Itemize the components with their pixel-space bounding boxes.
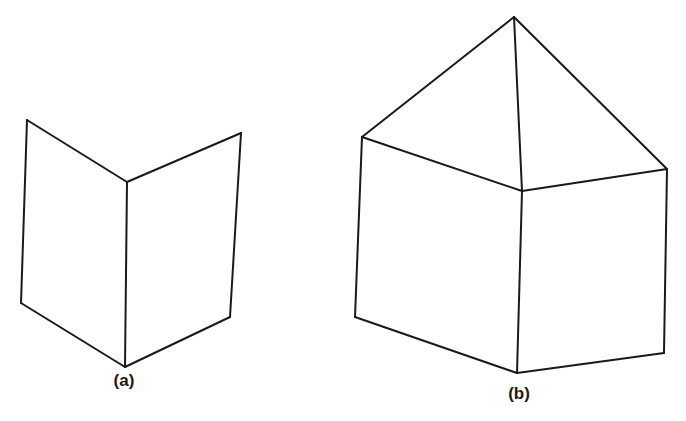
edge-top_left-bottom_left [21, 120, 27, 303]
edge-top_fold-top_right [127, 133, 241, 182]
edge-bottom_fold-bottom_right [125, 317, 230, 367]
edge-top_left-top_fold [362, 137, 522, 191]
edge-top_left-bottom_left [355, 137, 362, 317]
edge-top_fold-top_right [522, 169, 667, 191]
edge-bottom_fold-bottom_right [517, 353, 664, 373]
diagram-canvas: (a) (b) [0, 0, 686, 421]
edge-top_fold-bottom_fold [125, 182, 127, 367]
figure-a-folded-card [21, 120, 241, 367]
edge-top_left-top_fold [27, 120, 127, 182]
edge-bottom_left-bottom_fold [355, 317, 517, 373]
edge-bottom_left-bottom_fold [21, 303, 125, 367]
edge-apex-top_left [362, 17, 514, 137]
edge-top_right-bottom_right [664, 169, 667, 353]
edge-top_right-bottom_right [230, 133, 241, 317]
edge-apex-top_fold [514, 17, 522, 191]
edge-top_fold-bottom_fold [517, 191, 522, 373]
edge-apex-top_right [514, 17, 667, 169]
figure-b-house-shape [355, 17, 667, 373]
figure-a-label: (a) [114, 371, 135, 390]
figure-b-label: (b) [508, 384, 530, 403]
